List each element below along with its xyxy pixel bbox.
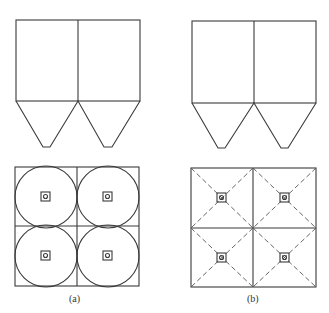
plan-b xyxy=(191,168,316,287)
panel-label-a: (a) xyxy=(69,293,80,304)
elevation-b xyxy=(192,21,316,148)
silo-diagram xyxy=(0,0,329,313)
elevation-a xyxy=(16,20,140,147)
panel-label-b: (b) xyxy=(247,293,259,304)
plan-a xyxy=(15,166,139,287)
